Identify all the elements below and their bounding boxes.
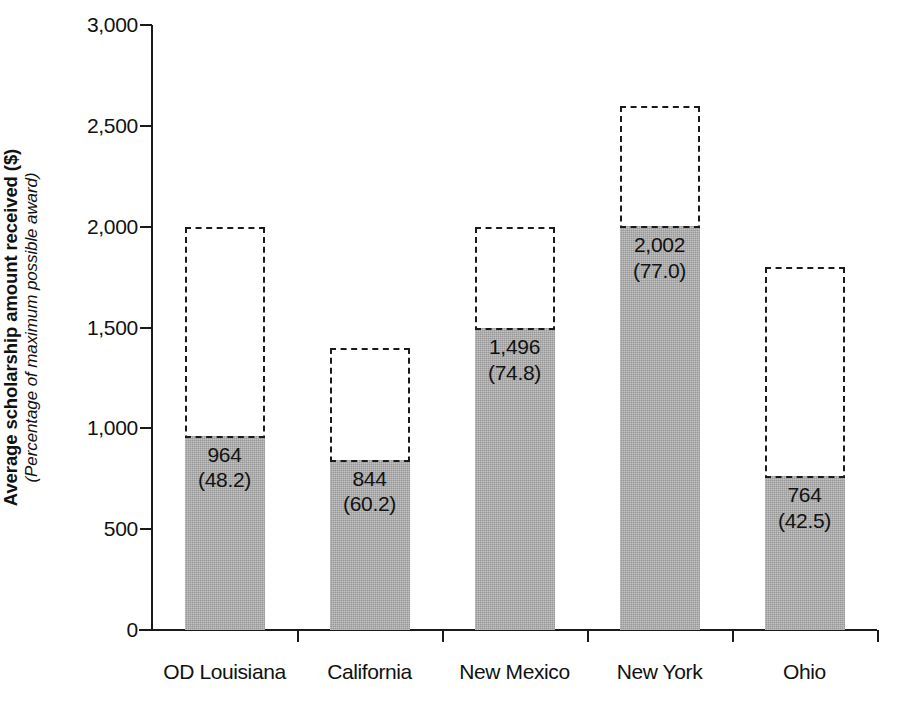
- plot-area: 05001,0001,5002,0002,5003,000964(48.2)OD…: [152, 25, 877, 630]
- x-axis-category-label: Ohio: [783, 660, 826, 684]
- y-axis-tick-label: 500: [104, 517, 138, 541]
- x-axis-tick-mark: [297, 630, 299, 642]
- y-axis-tick-label: 1,500: [87, 316, 138, 340]
- x-axis-tick-mark: [442, 630, 444, 642]
- y-axis-tick-label: 2,500: [87, 114, 138, 138]
- bar-percent-label: (42.5): [751, 508, 859, 534]
- bar-value-fill: 1,496(74.8): [475, 328, 555, 630]
- bar-group[interactable]: 964(48.2)OD Louisiana: [185, 227, 265, 630]
- bar-amount-label: 964: [207, 443, 241, 466]
- y-axis-tick-label: 3,000: [87, 13, 138, 37]
- bar-group[interactable]: 844(60.2)California: [330, 348, 410, 630]
- bar-percent-label: (48.2): [171, 467, 279, 493]
- bar-data-label: 764(42.5): [751, 482, 859, 533]
- y-axis-tick-mark: [140, 327, 152, 329]
- bar-data-label: 964(48.2): [171, 442, 279, 493]
- bar-amount-label: 2,002: [634, 233, 685, 256]
- y-axis-tick-label: 0: [127, 618, 138, 642]
- bar-data-label: 1,496(74.8): [461, 334, 569, 385]
- x-axis-category-label: New Mexico: [459, 660, 569, 684]
- x-axis-category-label: New York: [617, 660, 703, 684]
- bar-group[interactable]: 764(42.5)Ohio: [765, 267, 845, 630]
- x-axis-end-tick-mark: [877, 630, 879, 642]
- y-axis-tick-mark: [140, 24, 152, 26]
- bar-group[interactable]: 1,496(74.8)New Mexico: [475, 227, 555, 630]
- chart-container: Average scholarship amount received ($) …: [0, 0, 900, 701]
- bar-value-fill: 844(60.2): [330, 460, 410, 630]
- bar-amount-label: 764: [787, 483, 821, 506]
- bar-value-fill: 2,002(77.0): [620, 226, 700, 630]
- x-axis-tick-mark: [587, 630, 589, 642]
- y-axis-title: Average scholarship amount received ($) …: [0, 0, 62, 660]
- y-axis-tick-label: 1,000: [87, 416, 138, 440]
- y-axis-tick-mark: [140, 629, 152, 631]
- bar-value-fill: 964(48.2): [185, 436, 265, 630]
- y-axis-tick-mark: [140, 528, 152, 530]
- y-axis-title-main: Average scholarship amount received ($): [0, 0, 22, 655]
- x-axis-tick-mark: [732, 630, 734, 642]
- bar-percent-label: (77.0): [606, 258, 714, 284]
- y-axis-tick-mark: [140, 226, 152, 228]
- bar-amount-label: 1,496: [489, 335, 540, 358]
- y-axis-tick-label: 2,000: [87, 215, 138, 239]
- y-axis-title-sub: (Percentage of maximum possible award): [22, 0, 42, 655]
- bar-amount-label: 844: [352, 467, 386, 490]
- bar-group[interactable]: 2,002(77.0)New York: [620, 106, 700, 630]
- bar-data-label: 844(60.2): [316, 466, 424, 517]
- bar-value-fill: 764(42.5): [765, 476, 845, 630]
- bar-percent-label: (60.2): [316, 491, 424, 517]
- bar-data-label: 2,002(77.0): [606, 232, 714, 283]
- y-axis-tick-mark: [140, 125, 152, 127]
- x-axis-category-label: OD Louisiana: [163, 660, 285, 684]
- bar-percent-label: (74.8): [461, 360, 569, 386]
- y-axis-tick-mark: [140, 427, 152, 429]
- x-axis-category-label: California: [327, 660, 412, 684]
